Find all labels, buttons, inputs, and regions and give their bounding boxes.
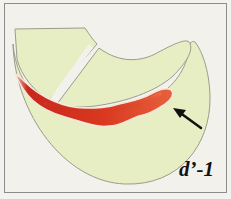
figure-frame: d’-1 [4, 3, 227, 193]
figure-label: d’-1 [179, 159, 214, 180]
